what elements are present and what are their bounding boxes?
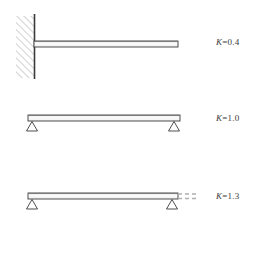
pin-support-right <box>169 122 180 132</box>
beam-cantilever <box>34 41 178 47</box>
pin-support-left <box>27 122 38 132</box>
beam-simply-supported <box>28 115 180 121</box>
case-simply-supported <box>27 115 181 131</box>
pin-support-left <box>27 200 38 210</box>
k-value: 1.0 <box>227 113 239 123</box>
k-factor-label-simply-supported: K=1.0 <box>216 113 239 123</box>
k-value: 1.3 <box>227 191 239 201</box>
k-factor-label-cantilever: K=0.4 <box>216 37 239 47</box>
beam-k-factor-figure: K=0.4 K=1.0 K=1.3 <box>0 0 254 260</box>
case-cantilever <box>16 14 178 79</box>
case-overhang <box>27 193 199 209</box>
k-factor-label-overhang: K=1.3 <box>216 191 239 201</box>
pin-support-right <box>167 200 178 210</box>
k-value: 0.4 <box>227 37 239 47</box>
fixed-wall-hatch <box>16 16 34 78</box>
